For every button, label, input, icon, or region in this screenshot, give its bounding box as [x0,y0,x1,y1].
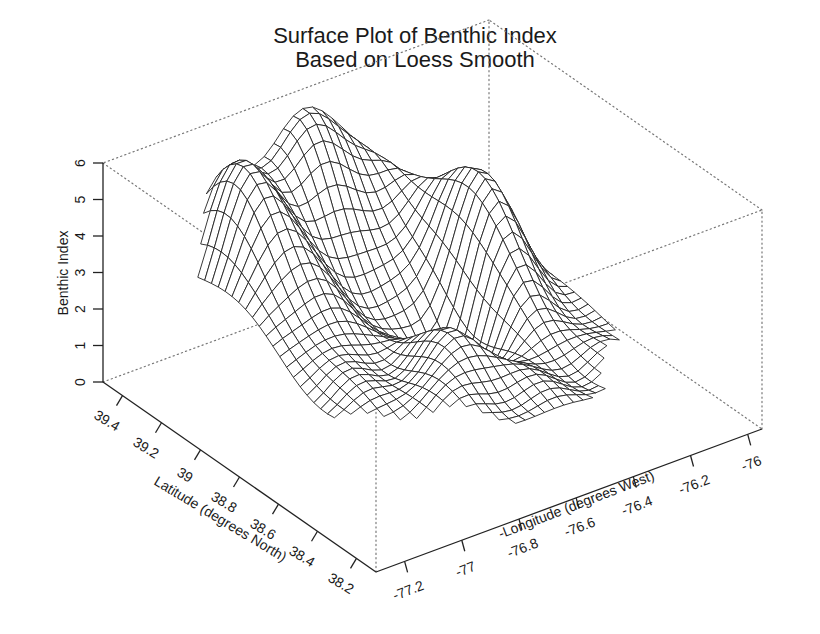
z-axis-label: Benthic Index [55,231,71,316]
z-tick-label: 6 [72,159,88,167]
z-tick-label: 5 [72,195,88,203]
wireframe-surface [198,107,620,423]
surface-plot: 012345639.439.23938.838.638.438.2-77.2-7… [0,0,820,634]
x-tick-label: -77 [453,558,478,580]
y-tick-label: 39.4 [91,407,123,435]
y-tick-label: 38.4 [286,542,318,570]
x-tick-label: -77.2 [390,577,426,603]
z-tick-label: 0 [72,378,88,386]
y-tick-label: 38.2 [325,569,357,597]
y-axis-label: Latitude (degrees North) [151,473,289,565]
x-tick-label: -76.8 [505,535,541,561]
y-tick-label: 39.2 [130,434,162,462]
x-tick-label: -76.2 [676,471,712,497]
x-tick-label: -76 [739,452,764,474]
z-tick-label: 4 [72,232,88,240]
z-tick-label: 2 [72,305,88,313]
z-tick-label: 1 [72,341,88,349]
x-tick-label: -76.6 [562,513,598,539]
z-tick-label: 3 [72,268,88,276]
x-tick-label: -76.4 [619,492,655,518]
